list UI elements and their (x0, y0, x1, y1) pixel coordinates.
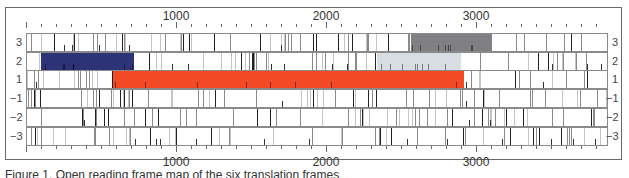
stop-codon-mark (53, 128, 54, 145)
axis-tick (206, 146, 207, 149)
stop-codon-mark (78, 71, 79, 88)
stop-codon-mark (338, 34, 339, 51)
axis-tick (116, 24, 117, 27)
stop-codon-mark (591, 109, 592, 126)
axis-tick (71, 24, 72, 27)
frame-row (26, 89, 608, 108)
stop-codon-mark (235, 53, 236, 70)
stop-codon-mark (575, 53, 576, 70)
frame-row (26, 33, 608, 52)
axis-tick (176, 22, 177, 28)
codon-mark (448, 45, 449, 51)
stop-codon-mark (209, 90, 210, 107)
codon-mark (438, 45, 439, 51)
stop-codon-mark (169, 128, 170, 145)
axis-tick (146, 24, 147, 27)
axis-tick (416, 24, 417, 27)
axis-tick (461, 24, 462, 27)
stop-codon-mark (519, 71, 520, 88)
axis-tick (56, 146, 57, 149)
stop-codon-mark (413, 90, 414, 107)
stop-codon-mark (78, 34, 79, 51)
stop-codon-mark (504, 109, 505, 126)
stop-codon-mark (580, 90, 581, 107)
axis-tick (506, 24, 507, 27)
stop-codon-mark (149, 53, 150, 70)
axis-tick (446, 24, 447, 27)
stop-codon-mark (532, 90, 533, 107)
stop-codon-mark (93, 34, 94, 51)
stop-codon-mark (126, 128, 127, 145)
stop-codon-mark (312, 53, 313, 70)
frame-label-left: −1 (10, 92, 23, 104)
stop-codon-mark (571, 34, 572, 51)
stop-codon-mark (99, 90, 100, 107)
codon-mark (331, 82, 332, 88)
frame-label-right: 1 (612, 73, 618, 85)
stop-codon-mark (506, 109, 507, 126)
axis-tick (356, 24, 357, 27)
axis-tick (566, 24, 567, 27)
stop-codon-mark (276, 109, 277, 126)
stop-codon-mark (396, 109, 397, 126)
stop-codon-mark (528, 53, 529, 70)
stop-codon-mark (214, 34, 215, 51)
stop-codon-mark (600, 128, 601, 145)
orf-block (41, 53, 135, 70)
axis-tick (161, 146, 162, 149)
stop-codon-mark (452, 109, 453, 126)
stop-codon-mark (84, 120, 85, 126)
axis-tick (86, 146, 87, 149)
stop-codon-mark (160, 139, 161, 145)
axis-tick (401, 146, 402, 149)
frame-row (26, 127, 608, 146)
axis-tick (326, 22, 327, 28)
stop-codon-mark (427, 109, 428, 126)
stop-codon-mark (528, 128, 529, 145)
stop-codon-mark (309, 139, 310, 145)
stop-codon-mark (124, 34, 125, 51)
stop-codon-mark (466, 82, 467, 88)
codon-mark (270, 82, 271, 88)
stop-codon-mark (515, 71, 516, 88)
stop-codon-mark (584, 71, 585, 88)
stop-codon-mark (183, 34, 184, 51)
stop-codon-mark (552, 71, 553, 88)
codon-mark (450, 45, 451, 51)
axis-tick (86, 24, 87, 27)
stop-codon-mark (116, 34, 117, 51)
stop-codon-mark (504, 128, 505, 145)
codon-mark (420, 45, 421, 51)
stop-codon-mark (552, 109, 553, 126)
stop-codon-mark (113, 90, 114, 107)
stop-codon-mark (530, 90, 531, 107)
stop-codon-mark (96, 90, 97, 107)
axis-tick (296, 146, 297, 149)
stop-codon-mark (368, 34, 369, 51)
stop-codon-mark (463, 128, 464, 145)
stop-codon-mark (270, 34, 271, 51)
codon-mark (456, 82, 457, 88)
stop-codon-mark (387, 109, 388, 126)
stop-codon-mark (80, 71, 81, 88)
frame-label-right: 2 (612, 55, 618, 67)
stop-codon-mark (341, 128, 342, 145)
axis-label-top: 1000 (163, 9, 190, 23)
stop-codon-mark (435, 109, 436, 126)
stop-codon-mark (484, 90, 485, 107)
codon-mark (472, 45, 473, 51)
axis-tick (506, 146, 507, 149)
stop-codon-mark (577, 90, 578, 107)
orf-block (113, 71, 463, 88)
frame-row (26, 108, 608, 127)
stop-codon-mark (99, 45, 100, 51)
stop-codon-mark (31, 90, 32, 107)
stop-codon-mark (317, 90, 318, 107)
axis-tick (281, 24, 282, 27)
axis-tick (41, 24, 42, 27)
codon-mark (145, 82, 146, 88)
codon-mark (246, 82, 247, 88)
stop-codon-mark (363, 109, 364, 126)
axis-tick (236, 24, 237, 27)
stop-codon-mark (348, 109, 349, 126)
